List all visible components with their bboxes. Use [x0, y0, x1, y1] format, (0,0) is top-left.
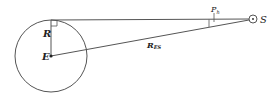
sun-symbol-icon: [249, 15, 257, 23]
earth-center-label: E: [41, 51, 50, 62]
distance-label-sub: ES: [153, 44, 162, 50]
tangent-line-to-sun: [51, 19, 249, 20]
earth-radius-label: R: [42, 28, 51, 39]
sun-label: S: [260, 14, 267, 25]
parallax-label-sub: h: [216, 9, 219, 15]
parallax-diagram: R E S RES Ph: [0, 0, 280, 105]
right-angle-marker: [51, 20, 57, 26]
parallax-label: Ph: [210, 5, 220, 15]
earth-center-dot: [49, 54, 52, 57]
earth-sun-distance-line: [51, 20, 249, 56]
distance-label: RES: [146, 40, 161, 50]
